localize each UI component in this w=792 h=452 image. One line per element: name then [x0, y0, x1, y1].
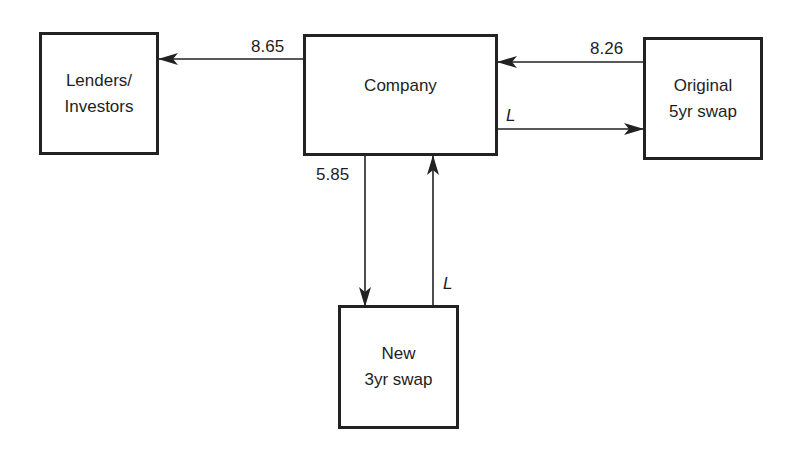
- node-label: New 3yr swap: [364, 341, 432, 393]
- edge-label-8-65: 8.65: [251, 37, 284, 57]
- node-company: Company: [303, 34, 498, 156]
- node-label: Lenders/ Investors: [65, 68, 134, 120]
- edge-label-8-26: 8.26: [590, 39, 623, 59]
- node-new-3yr-swap: New 3yr swap: [338, 305, 459, 429]
- edge-label-5-85: 5.85: [316, 165, 349, 185]
- node-original-5yr-swap: Original 5yr swap: [643, 37, 763, 160]
- node-label: Original 5yr swap: [669, 73, 737, 125]
- edge-label-l-original: L: [506, 106, 515, 126]
- node-label: Company: [364, 73, 437, 99]
- edge-label-l-new: L: [443, 274, 452, 294]
- node-lenders-investors: Lenders/ Investors: [39, 32, 159, 155]
- swap-flow-diagram: Lenders/ Investors Company Original 5yr …: [0, 0, 792, 452]
